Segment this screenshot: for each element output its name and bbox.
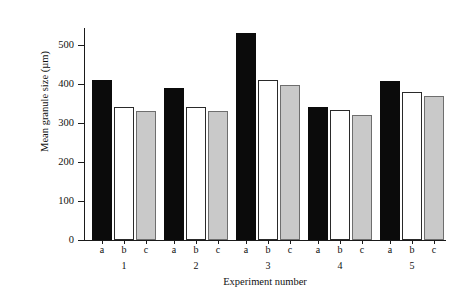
bar-1-b bbox=[114, 107, 134, 240]
y-tick-label: 0 bbox=[40, 235, 74, 245]
bar-group bbox=[236, 45, 300, 240]
x-subcategory-label: c bbox=[136, 245, 156, 255]
bar-2-a bbox=[164, 88, 184, 240]
bar-5-a bbox=[380, 81, 400, 240]
x-subcategory-label: a bbox=[236, 245, 256, 255]
x-subcategory-label: c bbox=[280, 245, 300, 255]
x-subcategory-label: b bbox=[258, 245, 278, 255]
y-tick-label-text: 100 bbox=[44, 196, 74, 207]
x-subcategory-label: b bbox=[186, 245, 206, 255]
bar-1-c bbox=[136, 111, 156, 240]
x-group-label: 3 bbox=[253, 261, 283, 271]
x-group-label: 1 bbox=[109, 261, 139, 271]
bar-3-c bbox=[280, 85, 300, 240]
bar-2-c bbox=[208, 111, 228, 240]
x-subcategory-label: b bbox=[402, 245, 422, 255]
chart-figure: 0100200300400500 Mean granule size (µm) … bbox=[0, 0, 470, 299]
x-group-label: 2 bbox=[181, 261, 211, 271]
x-subcategory-label: c bbox=[208, 245, 228, 255]
x-axis-title: Experiment number bbox=[84, 276, 446, 287]
x-subcategory-label: c bbox=[424, 245, 444, 255]
bar-group bbox=[92, 45, 156, 240]
bar-3-a bbox=[236, 33, 256, 240]
x-subcategory-label: b bbox=[114, 245, 134, 255]
x-group-label: 5 bbox=[397, 261, 427, 271]
bar-1-a bbox=[92, 80, 112, 240]
bar-4-a bbox=[308, 107, 328, 240]
bar-group bbox=[164, 45, 228, 240]
bar-5-b bbox=[402, 92, 422, 240]
x-subcategory-label: a bbox=[380, 245, 400, 255]
plot-area bbox=[84, 45, 446, 240]
bar-3-b bbox=[258, 80, 278, 240]
bar-group bbox=[380, 45, 444, 240]
x-subcategory-label: b bbox=[330, 245, 350, 255]
y-tick-mark bbox=[78, 240, 84, 241]
bar-4-b bbox=[330, 110, 350, 240]
bar-2-b bbox=[186, 107, 206, 240]
y-tick-label: 100 bbox=[40, 196, 74, 206]
bar-4-c bbox=[352, 115, 372, 240]
bar-group bbox=[308, 45, 372, 240]
x-subcategory-label: a bbox=[308, 245, 328, 255]
x-subcategory-label: a bbox=[164, 245, 184, 255]
bar-5-c bbox=[424, 96, 444, 240]
x-axis-line bbox=[84, 240, 446, 241]
x-subcategory-label: c bbox=[352, 245, 372, 255]
x-subcategory-label: a bbox=[92, 245, 112, 255]
x-group-label: 4 bbox=[325, 261, 355, 271]
y-tick-label-text: 0 bbox=[44, 235, 74, 246]
